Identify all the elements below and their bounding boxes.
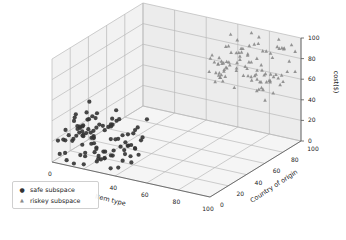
z-axis-label: cost($)	[332, 71, 340, 94]
svg-text:40: 40	[308, 96, 316, 103]
legend-item-safe: ● safe subspace	[17, 184, 75, 194]
svg-text:20: 20	[308, 116, 316, 123]
svg-text:0: 0	[220, 201, 224, 208]
svg-text:20: 20	[236, 190, 244, 197]
svg-text:80: 80	[291, 156, 299, 163]
svg-text:100: 100	[308, 34, 320, 41]
svg-text:100: 100	[202, 205, 214, 212]
legend-label: riskey subspace	[30, 197, 80, 204]
svg-text:60: 60	[308, 75, 316, 82]
svg-text:40: 40	[255, 179, 263, 186]
svg-text:100: 100	[307, 145, 319, 152]
legend: ● safe subspace ▲ riskey subspace	[12, 181, 99, 209]
svg-text:0: 0	[308, 137, 312, 144]
svg-text:60: 60	[273, 167, 281, 174]
svg-text:60: 60	[141, 191, 149, 198]
svg-text:80: 80	[173, 198, 181, 205]
x-axis-label: Item type	[94, 192, 126, 207]
circle-marker-icon: ●	[17, 186, 27, 193]
legend-item-risky: ▲ riskey subspace	[17, 195, 80, 205]
svg-text:0: 0	[48, 170, 52, 177]
svg-text:80: 80	[308, 55, 316, 62]
legend-label: safe subspace	[30, 186, 75, 193]
svg-text:40: 40	[109, 184, 117, 191]
triangle-marker-icon: ▲	[17, 197, 27, 203]
